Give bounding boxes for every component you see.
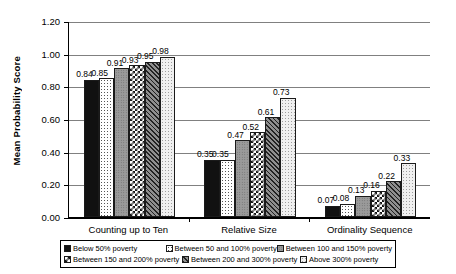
bar-value-label: 0.91 <box>107 59 124 68</box>
legend-swatch-icon <box>166 245 173 252</box>
legend-item: Between 100 and 150% poverty <box>277 243 392 254</box>
bar-value-label: 0.47 <box>227 131 244 140</box>
y-axis-tick <box>64 55 69 56</box>
bar <box>325 206 340 217</box>
bar-value-label: 0.08 <box>333 194 350 203</box>
legend-item: Below 50% poverty <box>64 243 166 254</box>
y-axis-tick <box>64 87 69 88</box>
bar <box>114 68 129 217</box>
y-axis-tick-label: 1.00 <box>16 50 60 60</box>
legend-row: Below 50% povertyBetween 50 and 100% pov… <box>64 243 392 254</box>
bar <box>401 163 416 217</box>
y-axis-tick-label: 0.00 <box>16 213 60 223</box>
y-axis-tick-label: 1.20 <box>16 17 60 27</box>
x-axis-category-label: Ordinality Sequence <box>309 224 430 235</box>
bar-value-label: 0.95 <box>137 52 154 61</box>
bar-group <box>204 22 295 217</box>
bar <box>160 57 175 217</box>
bar-value-label: 0.07 <box>318 196 335 205</box>
legend-item-label: Above 300% poverty <box>309 254 378 265</box>
y-axis-tick-label: 0.20 <box>16 180 60 190</box>
y-axis-tick-label: 0.60 <box>16 115 60 125</box>
legend-item-label: Between 50 and 100% poverty <box>175 243 277 254</box>
bar-value-label: 0.73 <box>273 88 290 97</box>
bar-value-label: 0.98 <box>152 47 169 56</box>
legend-item: Above 300% poverty <box>300 254 378 265</box>
y-axis-tick <box>64 185 69 186</box>
bar <box>280 98 295 217</box>
chart-legend: Below 50% povertyBetween 50 and 100% pov… <box>60 240 396 268</box>
bar <box>99 78 114 217</box>
x-axis-category-label: Counting up to Ten <box>68 224 189 235</box>
bar <box>204 160 219 217</box>
y-axis-tick <box>64 22 69 23</box>
bar-value-label: 0.33 <box>394 154 411 163</box>
bar-value-label: 0.35 <box>212 150 229 159</box>
bar-value-label: 0.16 <box>363 181 380 190</box>
y-axis-tick-label: 0.40 <box>16 148 60 158</box>
bar <box>340 204 355 217</box>
bar <box>250 132 265 217</box>
legend-swatch-icon <box>300 256 307 263</box>
bar <box>265 117 280 217</box>
bar-chart: Mean Probability Score 0.000.200.400.600… <box>0 0 456 274</box>
legend-item-label: Below 50% poverty <box>73 243 137 254</box>
legend-item: Between 50 and 100% poverty <box>166 243 277 254</box>
bar <box>84 80 99 217</box>
bar <box>145 62 160 217</box>
y-axis-tick <box>64 218 69 219</box>
legend-row: Between 150 and 200% povertyBetween 200 … <box>64 254 392 265</box>
bar-value-label: 0.84 <box>76 70 93 79</box>
legend-swatch-icon <box>64 245 71 252</box>
bar <box>129 65 144 217</box>
y-axis-tick <box>64 153 69 154</box>
legend-item-label: Between 200 and 300% poverty <box>191 254 297 265</box>
bar <box>235 140 250 217</box>
bar-value-label: 0.85 <box>91 69 108 78</box>
x-axis-tick <box>309 218 310 222</box>
legend-item-label: Between 150 and 200% poverty <box>73 254 179 265</box>
x-axis-category-label: Relative Size <box>189 224 310 235</box>
plot-area: 0.840.850.910.930.950.980.350.350.470.52… <box>68 22 430 218</box>
bar <box>355 196 370 217</box>
bar-value-label: 0.35 <box>197 150 214 159</box>
bar-value-label: 0.52 <box>243 123 260 132</box>
bar-value-label: 0.22 <box>378 172 395 181</box>
legend-item-label: Between 100 and 150% poverty <box>286 243 392 254</box>
bar <box>386 181 401 217</box>
legend-swatch-icon <box>64 256 71 263</box>
legend-swatch-icon <box>182 256 189 263</box>
bar-value-label: 0.93 <box>122 56 139 65</box>
bar <box>220 160 235 217</box>
bar-value-label: 0.13 <box>348 186 365 195</box>
x-axis-tick <box>189 218 190 222</box>
legend-item: Between 150 and 200% poverty <box>64 254 182 265</box>
bar <box>371 191 386 217</box>
gridline <box>69 218 430 219</box>
y-axis-tick-label: 0.80 <box>16 82 60 92</box>
y-axis-tick <box>64 120 69 121</box>
legend-item: Between 200 and 300% poverty <box>182 254 300 265</box>
legend-swatch-icon <box>277 245 284 252</box>
bar-value-label: 0.61 <box>258 108 275 117</box>
